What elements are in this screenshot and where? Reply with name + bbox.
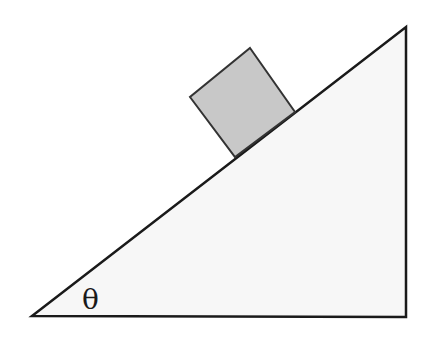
angle-theta-label: θ — [82, 283, 99, 316]
incline-diagram: θ — [0, 0, 435, 339]
inclined-plane — [32, 27, 406, 317]
